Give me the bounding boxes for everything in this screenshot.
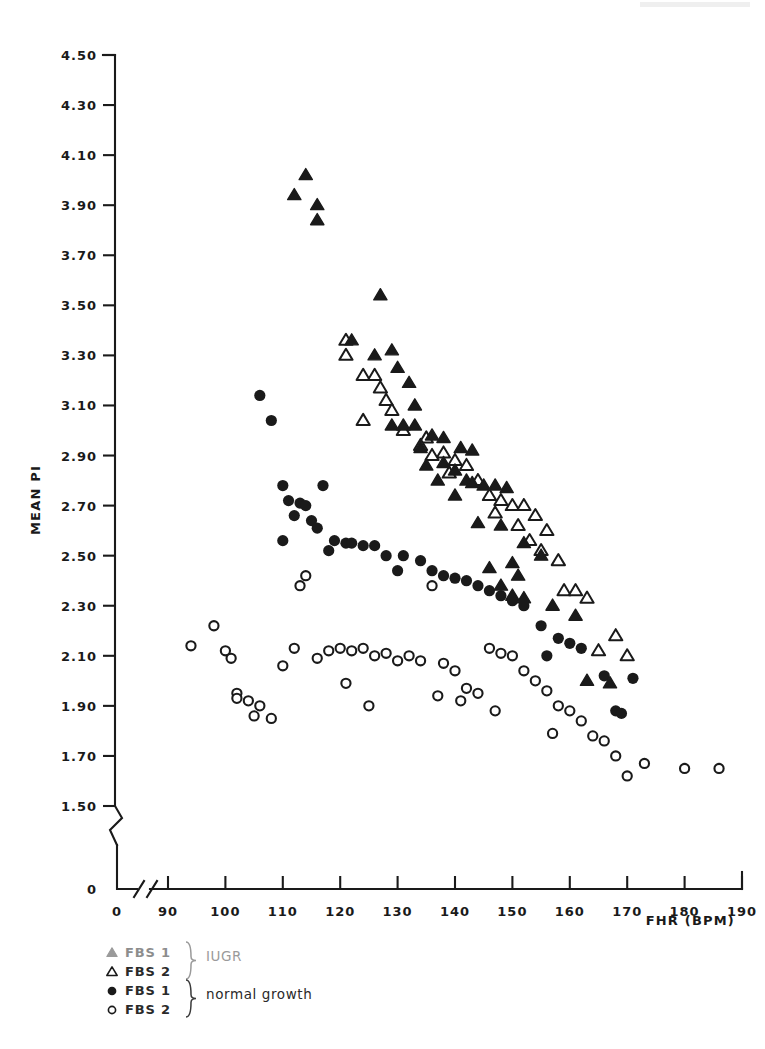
open-circle-marker — [680, 764, 689, 773]
y-axis-origin-stub — [117, 845, 137, 889]
open-circle-marker — [359, 644, 368, 653]
legend-row: FBS 2 — [108, 1002, 170, 1017]
y-tick-label: 4.50 — [61, 48, 97, 63]
x-tick-label: 160 — [555, 904, 585, 919]
filled-triangle-marker — [517, 592, 530, 603]
filled-circle-marker — [553, 633, 564, 644]
legend-label: FBS 1 — [125, 983, 171, 998]
x-tick-label: 130 — [383, 904, 413, 919]
filled-circle-marker — [415, 555, 426, 566]
filled-circle-marker — [461, 575, 472, 586]
open-circle-marker — [588, 731, 597, 740]
filled-circle-marker — [398, 550, 409, 561]
open-circle-marker — [623, 771, 632, 780]
filled-triangle-marker — [546, 599, 559, 610]
open-circle-marker — [473, 689, 482, 698]
y-tick-label: 1.90 — [61, 699, 97, 714]
filled-triangle-marker — [437, 431, 450, 442]
open-circle-marker — [209, 621, 218, 630]
open-triangle-marker — [357, 414, 370, 425]
open-circle-marker — [301, 571, 310, 580]
open-circle-marker — [295, 581, 304, 590]
open-circle-marker — [416, 656, 425, 665]
filled-circle-marker — [108, 987, 117, 996]
open-circle-marker — [382, 649, 391, 658]
legend-label: FBS 2 — [125, 964, 171, 979]
open-triangle-marker — [368, 369, 381, 380]
filled-circle-marker — [564, 638, 575, 649]
y-tick-label: 3.70 — [61, 248, 97, 263]
filled-triangle-marker — [385, 419, 398, 430]
y-tick-label: 2.30 — [61, 599, 97, 614]
open-circle-marker — [485, 644, 494, 653]
filled-circle-marker — [472, 580, 483, 591]
x-tick-label: 0 — [112, 904, 122, 919]
legend-label: FBS 2 — [125, 1002, 171, 1017]
open-triangle-marker — [569, 584, 582, 595]
legend-label: FBS 1 — [125, 945, 171, 960]
open-circle-marker — [600, 736, 609, 745]
open-triangle-marker — [609, 629, 622, 640]
filled-circle-marker — [536, 620, 547, 631]
filled-circle-marker — [381, 550, 392, 561]
filled-circle-marker — [277, 480, 288, 491]
open-circle-marker — [324, 646, 333, 655]
filled-circle-marker — [329, 535, 340, 546]
open-circle-marker — [456, 696, 465, 705]
open-circle-marker — [364, 701, 373, 710]
filled-circle-marker — [346, 538, 357, 549]
filled-circle-marker — [358, 540, 369, 551]
open-triangle-marker — [339, 349, 352, 360]
open-triangle-marker — [540, 524, 553, 535]
legend-row: FBS 1 — [108, 983, 171, 998]
open-circle-marker — [313, 654, 322, 663]
x-tick-label: 120 — [325, 904, 355, 919]
open-circle-marker — [577, 716, 586, 725]
series-open-circle-normal-growth — [186, 571, 723, 780]
open-circle-marker — [496, 649, 505, 658]
filled-circle-marker — [392, 565, 403, 576]
y-tick-label: 1.70 — [61, 749, 97, 764]
filled-triangle-marker — [494, 519, 507, 530]
x-tick-label: 100 — [210, 904, 240, 919]
open-triangle-marker — [621, 649, 634, 660]
legend-brace — [186, 942, 196, 979]
filled-circle-marker — [449, 573, 460, 584]
open-circle-marker — [244, 696, 253, 705]
filled-triangle-marker — [431, 474, 444, 485]
legend-row: FBS 2 — [107, 964, 171, 979]
filled-triangle-marker — [489, 479, 502, 490]
filled-triangle-marker — [299, 169, 312, 180]
filled-circle-marker — [254, 390, 265, 401]
x-tick-label: 170 — [612, 904, 642, 919]
filled-triangle-marker — [385, 344, 398, 355]
filled-triangle-marker — [500, 481, 513, 492]
filled-circle-marker — [616, 708, 627, 719]
y-tick-label: 1.50 — [61, 799, 97, 814]
y-tick-label: 4.10 — [61, 148, 97, 163]
filled-circle-marker — [438, 570, 449, 581]
filled-triangle-marker — [368, 349, 381, 360]
filled-triangle-marker — [311, 199, 324, 210]
filled-triangle-marker — [391, 361, 404, 372]
filled-circle-marker — [426, 565, 437, 576]
open-circle-marker — [404, 651, 413, 660]
open-triangle-marker — [107, 967, 117, 976]
filled-triangle-marker — [374, 289, 387, 300]
y-axis-break — [110, 806, 122, 845]
y-tick-label: 3.10 — [61, 398, 97, 413]
filled-triangle-marker — [494, 579, 507, 590]
open-triangle-marker — [592, 644, 605, 655]
chart-legend: FBS 1FBS 2FBS 1FBS 2IUGRnormal growth — [107, 942, 313, 1017]
filled-circle-marker — [283, 495, 294, 506]
legend-group-label: IUGR — [206, 948, 242, 964]
open-triangle-marker — [517, 499, 530, 510]
filled-triangle-marker — [402, 376, 415, 387]
open-circle-marker — [186, 641, 195, 650]
open-circle-marker — [433, 691, 442, 700]
open-circle-marker — [640, 759, 649, 768]
filled-circle-marker — [484, 585, 495, 596]
x-tick-label: 140 — [440, 904, 470, 919]
axes — [103, 55, 742, 897]
filled-circle-marker — [576, 643, 587, 654]
